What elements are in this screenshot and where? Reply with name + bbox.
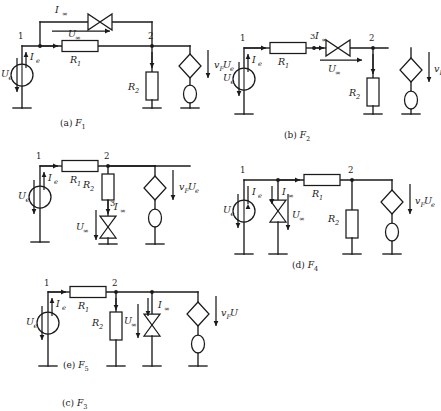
label-current-inf-c: I (113, 201, 118, 212)
svg-text:e: e (26, 196, 30, 204)
svg-text:2: 2 (355, 93, 360, 101)
svg-text:∞: ∞ (83, 227, 89, 235)
svg-text:e: e (36, 57, 40, 65)
current-source-symbol-a (88, 14, 112, 30)
svg-text:2: 2 (134, 87, 139, 95)
node-label-1-c: 1 (36, 151, 41, 161)
resistor-r2-e (110, 312, 122, 340)
svg-text:∞: ∞ (322, 36, 328, 44)
label-r1-d: R (311, 188, 319, 199)
svg-text:1: 1 (319, 194, 323, 202)
resistor-r2-d (346, 210, 358, 238)
ellipse-source-symbol-b (405, 91, 418, 109)
caption-c: (c) F3 (62, 398, 87, 411)
label-r2-b: R (348, 87, 356, 98)
label-ie-c: I (47, 172, 52, 183)
label-current-inf-e: I (157, 299, 162, 310)
label-current-inf-b: I (314, 30, 319, 41)
label-ie-b: I (251, 54, 256, 65)
svg-text:∞: ∞ (335, 69, 341, 77)
label-current-inf-d: I (281, 186, 286, 197)
svg-text:∞: ∞ (131, 321, 137, 329)
circuit-diagram-b: R 1 3 I ∞ U ∞ 1 2 (222, 18, 441, 133)
resistor-r2-b (367, 78, 379, 106)
svg-text:∞: ∞ (299, 215, 305, 223)
caption-e: (e) F5 (63, 360, 89, 373)
label-r1-e: R (77, 300, 85, 311)
svg-text:e: e (231, 210, 235, 218)
svg-text:e: e (431, 201, 435, 209)
label-ie-a: I (29, 51, 34, 62)
svg-text:e: e (34, 322, 38, 330)
current-source-symbol-b (326, 40, 350, 56)
label-r2-d: R (327, 213, 335, 224)
dependent-source-symbol-c (144, 176, 166, 200)
node-label-2-e: 2 (112, 278, 117, 288)
label-ie-e: I (55, 298, 60, 309)
node-label-2-c: 2 (104, 151, 109, 161)
label-r2-c: R (82, 179, 90, 190)
svg-text:2: 2 (98, 323, 103, 331)
resistor-r1-e (70, 287, 106, 298)
node-label-2-a: 2 (148, 31, 153, 41)
resistor-r2-c (102, 174, 114, 200)
svg-text:e: e (62, 304, 66, 312)
ellipse-source-symbol-c (149, 209, 162, 227)
current-source-symbol-e (144, 314, 160, 336)
svg-text:e: e (258, 60, 262, 68)
node-label-1-b: 1 (240, 33, 245, 43)
svg-text:∞: ∞ (164, 305, 170, 313)
label-r1-a: R (69, 54, 77, 65)
svg-text:U: U (230, 307, 239, 318)
svg-text:2: 2 (89, 185, 94, 193)
ellipse-source-symbol-a (184, 85, 197, 103)
svg-text:e: e (258, 192, 262, 200)
svg-text:1: 1 (285, 62, 289, 70)
label-ie-d: I (251, 186, 256, 197)
current-source-symbol-c (100, 216, 116, 238)
label-r1-c: R (69, 174, 77, 185)
svg-text:e: e (54, 178, 58, 186)
svg-text:e: e (9, 74, 13, 82)
caption-a: (a) F1 (60, 118, 86, 131)
svg-text:e: e (231, 78, 235, 86)
node-label-2-b: 2 (369, 33, 374, 43)
resistor-r1-a (62, 41, 98, 52)
ellipse-source-symbol-d (386, 223, 399, 241)
dependent-source-symbol-a (179, 54, 201, 78)
dependent-source-symbol-e (187, 302, 209, 326)
ellipse-source-symbol-e (192, 335, 205, 353)
svg-text:e: e (195, 187, 199, 195)
label-r2-a: R (127, 81, 135, 92)
svg-text:1: 1 (77, 60, 81, 68)
svg-text:2: 2 (334, 219, 339, 227)
label-current-inf-a: I (54, 4, 59, 15)
caption-b: (b) F2 (284, 130, 310, 143)
label-r1-b: R (277, 56, 285, 67)
svg-text:1: 1 (85, 306, 89, 314)
svg-text:1: 1 (77, 180, 81, 188)
caption-d: (d) F4 (292, 260, 318, 273)
resistor-r1-d (304, 175, 340, 186)
resistor-r1-c (62, 161, 98, 172)
svg-text:∞: ∞ (120, 207, 126, 215)
circuit-diagram-a: I ∞ R 1 U ∞ 1 2 (0, 0, 220, 120)
node-label-1-a: 1 (18, 31, 23, 41)
dependent-source-symbol-b (400, 58, 422, 82)
circuit-diagram-d: R 1 1 2 U e I e (222, 160, 441, 270)
resistor-r1-b (270, 43, 306, 54)
label-r2-e: R (91, 317, 99, 328)
dependent-source-symbol-d (381, 190, 403, 214)
svg-text:∞: ∞ (288, 192, 294, 200)
circuit-diagram-e: R 1 1 2 U e I e (8, 282, 240, 382)
node-label-1-e: 1 (44, 278, 49, 288)
svg-text:∞: ∞ (62, 10, 68, 18)
resistor-r2-a (146, 72, 158, 100)
node-label-2-d: 2 (348, 165, 353, 175)
svg-text:∞: ∞ (75, 34, 81, 42)
node-label-1-d: 1 (240, 165, 245, 175)
circuit-diagram-c: R 1 1 2 U e I e R 2 (0, 148, 220, 258)
